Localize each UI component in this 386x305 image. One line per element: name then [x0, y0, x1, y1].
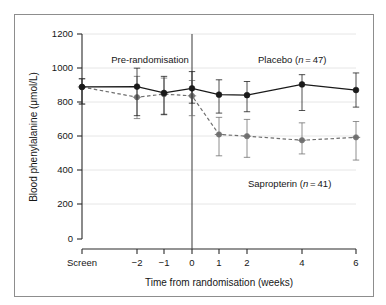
- x-tick-minus2: −2: [132, 257, 143, 268]
- x-axis: [82, 249, 356, 254]
- data-point: [134, 84, 140, 90]
- y-tick-200: 200: [57, 198, 73, 209]
- y-axis: [77, 34, 82, 239]
- data-point: [161, 90, 167, 96]
- x-tick-0: 0: [189, 257, 194, 268]
- phenylalanine-line-chart: 1200 1000 800 600 400 200 0 Blood phenyl…: [15, 15, 375, 298]
- y-tick-0: 0: [68, 233, 73, 244]
- x-tick-6: 6: [353, 257, 358, 268]
- annotation-placebo: Placebo (n = 47): [258, 54, 327, 65]
- data-point: [353, 87, 359, 93]
- placebo-name-text: Placebo (: [258, 54, 299, 65]
- y-axis-title: Blood phenylalanine (μmol/L): [28, 72, 39, 202]
- x-tick-2: 2: [244, 257, 249, 268]
- data-point: [244, 92, 250, 98]
- figure-frame: 1200 1000 800 600 400 200 0 Blood phenyl…: [14, 14, 374, 297]
- sapropterin-n-value: = 41): [308, 178, 331, 189]
- data-point: [216, 92, 222, 98]
- y-tick-400: 400: [57, 164, 73, 175]
- y-tick-800: 800: [57, 96, 73, 107]
- data-point: [299, 81, 305, 87]
- y-tick-600: 600: [57, 130, 73, 141]
- x-tick-minus1: −1: [159, 257, 170, 268]
- placebo-n-value: = 47): [303, 54, 326, 65]
- annotation-pre-randomisation: Pre-randomisation: [111, 54, 189, 65]
- sapropterin-name-text: Sapropterin (: [248, 178, 304, 189]
- series-placebo: [79, 68, 359, 115]
- x-tick-labels: Screen −2 −1 0 1 2 4 6: [67, 257, 359, 268]
- x-tick-screen: Screen: [67, 257, 97, 268]
- y-tick-1200: 1200: [52, 28, 73, 39]
- x-tick-4: 4: [299, 257, 304, 268]
- data-point: [79, 84, 85, 90]
- x-tick-1: 1: [216, 257, 221, 268]
- data-point: [189, 85, 195, 91]
- annotation-sapropterin: Sapropterin (n = 41): [248, 178, 331, 189]
- y-tick-labels: 1200 1000 800 600 400 200 0: [52, 28, 73, 244]
- x-axis-title: Time from randomisation (weeks): [145, 277, 293, 288]
- y-tick-1000: 1000: [52, 62, 73, 73]
